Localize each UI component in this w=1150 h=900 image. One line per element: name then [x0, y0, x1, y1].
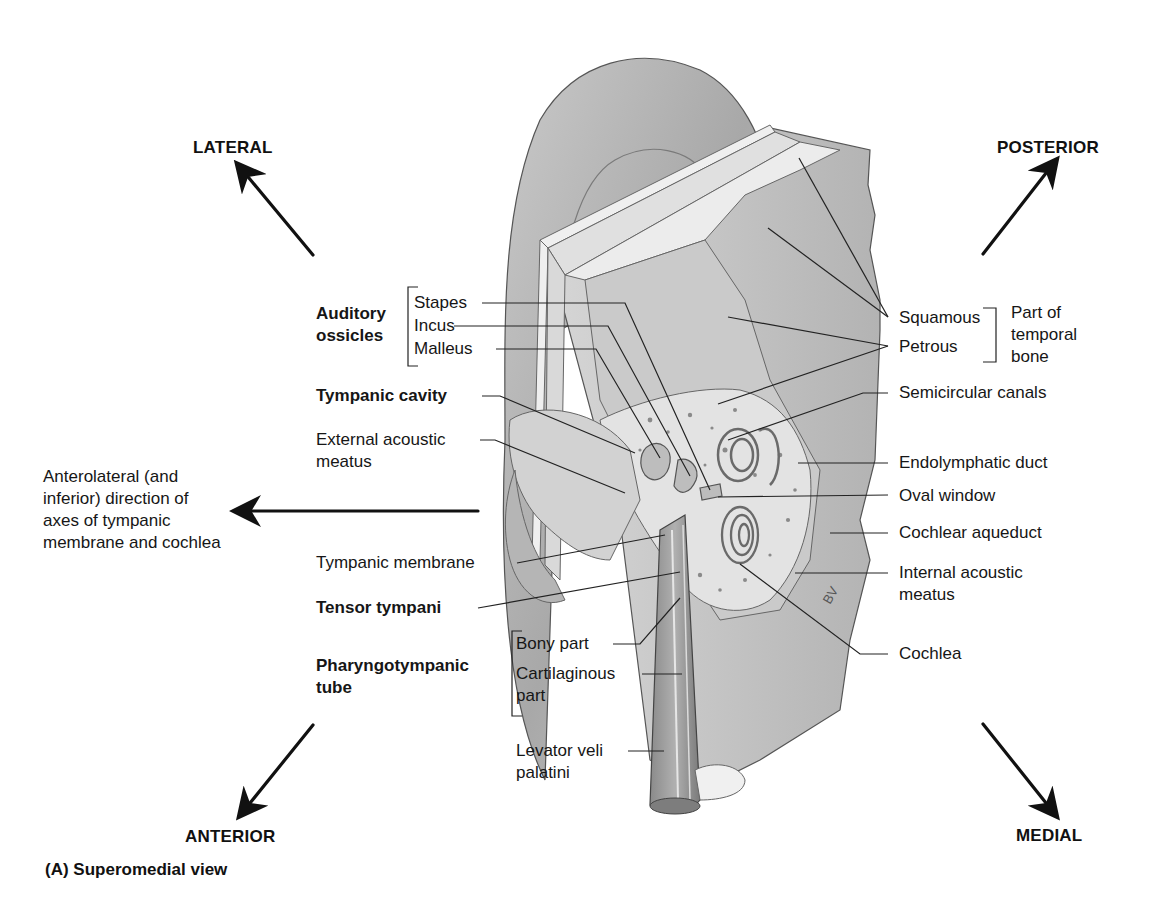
label-line: meatus	[316, 451, 445, 473]
direction-anterior: ANTERIOR	[185, 827, 275, 847]
label-tympanic-membrane: Tympanic membrane	[316, 552, 475, 574]
label-cochlea: Cochlea	[899, 643, 961, 665]
label-line: Auditory	[316, 303, 386, 325]
label-line: Internal acoustic	[899, 562, 1023, 584]
label-line: tube	[316, 677, 469, 699]
axis-note: Anterolateral (and inferior) direction o…	[43, 466, 221, 554]
label-line: Cartilaginous	[516, 663, 615, 685]
label-auditory-ossicles: Auditory ossicles	[316, 303, 386, 347]
label-endolymphatic-duct: Endolymphatic duct	[899, 452, 1047, 474]
direction-medial: MEDIAL	[1016, 826, 1082, 846]
label-semicircular-canals: Semicircular canals	[899, 382, 1046, 404]
label-tensor-tympani: Tensor tympani	[316, 597, 441, 619]
label-cochlear-aqueduct: Cochlear aqueduct	[899, 522, 1042, 544]
label-line: bone	[1011, 346, 1077, 368]
axis-note-line: membrane and cochlea	[43, 532, 221, 554]
direction-posterior: POSTERIOR	[997, 138, 1099, 158]
label-line: Pharyngotympanic	[316, 655, 469, 677]
axis-note-line: Anterolateral (and	[43, 466, 221, 488]
label-line: meatus	[899, 584, 1023, 606]
label-squamous: Squamous	[899, 307, 980, 329]
label-line: temporal	[1011, 324, 1077, 346]
label-petrous: Petrous	[899, 336, 958, 358]
axis-note-line: axes of tympanic	[43, 510, 221, 532]
label-line: Part of	[1011, 302, 1077, 324]
label-malleus: Malleus	[414, 338, 473, 360]
label-line: part	[516, 685, 615, 707]
label-cartilaginous-part: Cartilaginous part	[516, 663, 615, 707]
figure-caption: (A) Superomedial view	[45, 860, 227, 880]
label-internal-acoustic-meatus: Internal acoustic meatus	[899, 562, 1023, 606]
label-oval-window: Oval window	[899, 485, 995, 507]
label-line: Levator veli	[516, 740, 603, 762]
label-line: ossicles	[316, 325, 386, 347]
axis-note-line: inferior) direction of	[43, 488, 221, 510]
label-line: External acoustic	[316, 429, 445, 451]
label-line: palatini	[516, 762, 603, 784]
label-bony-part: Bony part	[516, 633, 589, 655]
label-part-of-temporal-bone: Part of temporal bone	[1011, 302, 1077, 368]
label-pharyngotympanic-tube: Pharyngotympanic tube	[316, 655, 469, 699]
direction-lateral: LATERAL	[193, 138, 272, 158]
label-levator-veli-palatini: Levator veli palatini	[516, 740, 603, 784]
label-tympanic-cavity: Tympanic cavity	[316, 385, 447, 407]
label-external-acoustic-meatus: External acoustic meatus	[316, 429, 445, 473]
label-stapes: Stapes	[414, 292, 467, 314]
label-incus: Incus	[414, 315, 455, 337]
